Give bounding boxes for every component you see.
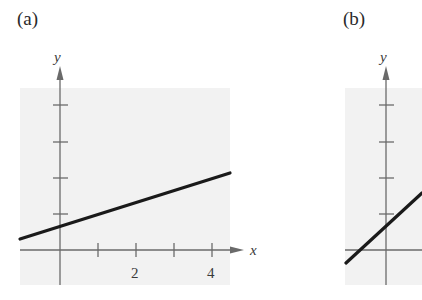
panel-a-graph: 2 4 y x xyxy=(20,49,257,285)
panel-a-x-arrow-icon xyxy=(230,247,244,254)
panel-b-graph: y xyxy=(345,49,422,285)
panel-a-background xyxy=(20,88,230,285)
panel-a-x-tick-label-4: 4 xyxy=(207,265,215,281)
figure-canvas: 2 4 y x y xyxy=(0,0,422,300)
panel-a-x-label: x xyxy=(249,242,257,258)
panel-b-y-arrow-icon xyxy=(383,66,390,80)
panel-a-y-arrow-icon xyxy=(57,66,64,80)
panel-a-x-tick-label-2: 2 xyxy=(131,265,139,281)
panel-a-y-label: y xyxy=(52,49,61,65)
panel-b-y-label: y xyxy=(378,49,387,65)
